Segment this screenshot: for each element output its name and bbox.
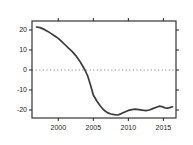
y-tick-label: 0 xyxy=(23,66,27,73)
series-line-smoothed-curve xyxy=(37,27,173,115)
y-tick-label: -10 xyxy=(17,86,27,93)
x-tick-label: 2000 xyxy=(50,124,66,131)
y-tick-label: 20 xyxy=(19,26,27,33)
chart-figure: 2000200520102015-20-1001020 xyxy=(0,0,193,145)
line-chart: 2000200520102015-20-1001020 xyxy=(0,0,193,145)
x-tick-label: 2005 xyxy=(86,124,102,131)
y-tick-label: -20 xyxy=(17,106,27,113)
y-tick-label: 10 xyxy=(19,46,27,53)
data-series xyxy=(37,27,173,115)
x-tick-label: 2015 xyxy=(156,124,172,131)
axis-tick-labels: 2000200520102015-20-1001020 xyxy=(17,26,171,130)
x-tick-label: 2010 xyxy=(121,124,137,131)
